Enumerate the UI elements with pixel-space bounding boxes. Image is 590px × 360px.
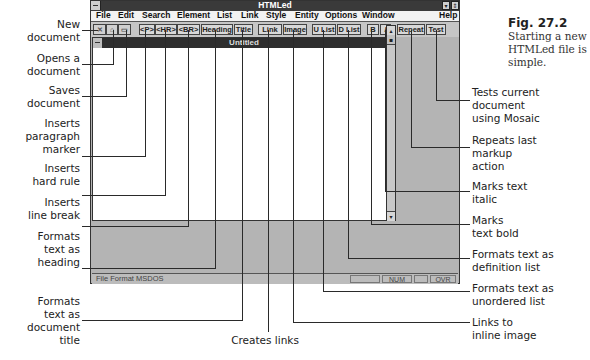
callout-unordered-list: Formats text asunordered list bbox=[472, 282, 590, 308]
bold-button[interactable]: B bbox=[367, 24, 379, 35]
menu-edit[interactable]: Edit bbox=[118, 10, 134, 21]
menu-link[interactable]: Link bbox=[241, 10, 258, 21]
figure-caption-line: simple. bbox=[508, 56, 590, 69]
toolbar: ✕ ⌂ ▭ <P> <HR> <BR> Heading Title Link I… bbox=[91, 22, 459, 37]
status-cell-blank bbox=[350, 275, 380, 283]
status-cell-blank bbox=[414, 275, 428, 283]
untitled-document-window[interactable]: Untitled ▾ bbox=[92, 37, 396, 221]
link-button[interactable]: Link bbox=[258, 24, 282, 35]
menu-list[interactable]: List bbox=[217, 10, 232, 21]
restore-button[interactable]: ⇕ bbox=[451, 1, 459, 10]
callout-inline-image: Links toinline image bbox=[472, 316, 590, 342]
minimize-button[interactable]: ▾ bbox=[442, 1, 450, 10]
figure-caption-line: Starting a new bbox=[508, 30, 590, 43]
callout-paragraph-marker: Insertsparagraphmarker bbox=[0, 117, 80, 156]
callout-repeat: Repeats lastmarkupaction bbox=[472, 134, 590, 173]
callout-open-document: Opens adocument bbox=[0, 52, 80, 78]
menu-options[interactable]: Options bbox=[325, 10, 357, 21]
callout-test: Tests currentdocumentusing Mosaic bbox=[472, 86, 590, 125]
callout-bold: Markstext bold bbox=[472, 214, 590, 240]
callout-creates-links: Creates links bbox=[225, 334, 305, 347]
callout-line-break: Insertsline break bbox=[0, 196, 80, 222]
menu-bar: File Edit Search Element List Link Style… bbox=[91, 11, 459, 22]
callout-new-document: Newdocument bbox=[0, 18, 80, 44]
menu-entity[interactable]: Entity bbox=[295, 10, 319, 21]
status-num: NUM bbox=[382, 275, 412, 283]
callout-heading: Formatstext asheading bbox=[0, 230, 80, 269]
menu-window[interactable]: Window bbox=[362, 10, 395, 21]
menu-file[interactable]: File bbox=[96, 10, 111, 21]
scroll-thumb[interactable]: ▪ bbox=[387, 35, 395, 45]
unordered-list-button[interactable]: U List bbox=[312, 24, 336, 35]
figure-number: Fig. 27.2 bbox=[508, 16, 590, 30]
menu-search[interactable]: Search bbox=[142, 10, 170, 21]
menu-element[interactable]: Element bbox=[177, 10, 210, 21]
heading-button[interactable]: Heading bbox=[201, 24, 233, 35]
save-document-button[interactable]: ▭ bbox=[118, 24, 131, 35]
figure-caption-line: HTMLed file is bbox=[508, 43, 590, 56]
title-button[interactable]: Title bbox=[234, 24, 253, 35]
definition-list-button[interactable]: D List bbox=[337, 24, 361, 35]
status-ovr: OVR bbox=[430, 275, 456, 283]
menu-style[interactable]: Style bbox=[266, 10, 286, 21]
menu-help[interactable]: Help bbox=[439, 10, 457, 21]
hard-rule-button[interactable]: <HR> bbox=[155, 24, 177, 35]
figure-caption: Fig. 27.2 Starting a new HTMLed file is … bbox=[508, 16, 590, 69]
callout-definition-list: Formats text asdefinition list bbox=[472, 248, 590, 274]
callout-italic: Marks textitalic bbox=[472, 180, 590, 206]
open-document-button[interactable]: ⌂ bbox=[106, 24, 118, 35]
document-title-bar[interactable]: Untitled ▾ bbox=[93, 38, 395, 48]
callout-save-document: Savesdocument bbox=[0, 84, 80, 110]
paragraph-button[interactable]: <P> bbox=[139, 24, 155, 35]
scroll-down-icon[interactable]: ▾ bbox=[387, 211, 395, 221]
status-bar: File Format MSDOS NUM OVR bbox=[92, 273, 458, 284]
callout-document-title: Formatstext asdocumenttitle bbox=[0, 295, 80, 347]
callout-hard-rule: Insertshard rule bbox=[0, 162, 80, 188]
document-title: Untitled bbox=[93, 37, 395, 48]
status-text: File Format MSDOS bbox=[96, 274, 164, 284]
image-button[interactable]: Image bbox=[283, 24, 307, 35]
